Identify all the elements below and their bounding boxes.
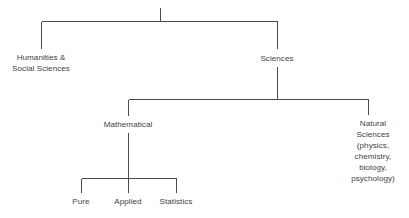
node-humanities-social-sciences: Humanities & Social Sciences	[0, 52, 96, 74]
node-statistics: Statistics	[141, 196, 211, 207]
node-mathematical: Mathematical	[78, 119, 178, 130]
connector-lines	[0, 0, 409, 218]
tree-diagram: Humanities & Social Sciences Sciences Ma…	[0, 0, 409, 218]
node-natural-sciences: Natural Sciences (physics, chemistry, bi…	[333, 118, 409, 184]
node-sciences: Sciences	[232, 53, 322, 64]
